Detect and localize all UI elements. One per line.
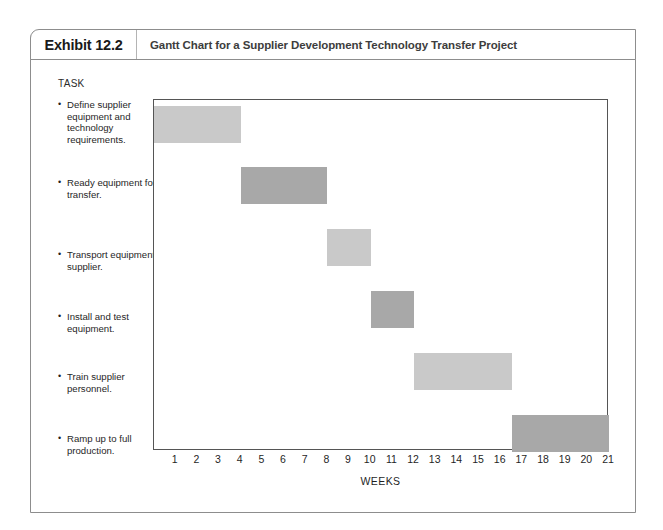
task-label-text: Ramp up to full production. [67, 433, 166, 456]
gantt-bar [512, 415, 610, 452]
x-tick-label: 6 [280, 453, 286, 465]
task-label-text: Transport equipment to supplier. [67, 249, 166, 272]
gantt-bar [371, 291, 414, 328]
x-tick-label: 18 [537, 453, 549, 465]
exhibit-header: Exhibit 12.2 Gantt Chart for a Supplier … [30, 29, 636, 60]
x-tick-label: 9 [345, 453, 351, 465]
task-label-text: Ready equipment for transfer. [67, 177, 166, 200]
bullet-icon: • [58, 249, 67, 261]
bullet-icon: • [58, 433, 67, 445]
gantt-chart: TASK •Define supplier equipment and tech… [31, 61, 635, 512]
task-label-item: •Train supplier personnel. [58, 371, 166, 394]
x-tick-label: 5 [258, 453, 264, 465]
x-tick-label: 7 [302, 453, 308, 465]
x-tick-label: 19 [559, 453, 571, 465]
x-axis-title: WEEKS [153, 475, 608, 487]
x-tick-label: 20 [580, 453, 592, 465]
gantt-bar [154, 106, 241, 143]
x-tick-label: 4 [237, 453, 243, 465]
bullet-icon: • [58, 311, 67, 323]
x-tick-label: 3 [215, 453, 221, 465]
task-label-text: Train supplier personnel. [67, 371, 166, 394]
exhibit-screenshot: Exhibit 12.2 Gantt Chart for a Supplier … [0, 0, 663, 530]
x-tick-label: 21 [602, 453, 614, 465]
x-tick-label: 1 [172, 453, 178, 465]
x-tick-label: 10 [364, 453, 376, 465]
bullet-icon: • [58, 99, 67, 111]
bullet-icon: • [58, 177, 67, 189]
x-tick-label: 15 [472, 453, 484, 465]
x-axis-ticks: 123456789101112131415161718192021 [153, 453, 608, 471]
x-tick-label: 16 [494, 453, 506, 465]
gantt-bar [241, 167, 328, 204]
task-column-header: TASK [58, 78, 85, 89]
x-tick-label: 13 [429, 453, 441, 465]
gantt-plot-area [153, 99, 608, 450]
exhibit-number: Exhibit 12.2 [31, 30, 137, 59]
gantt-bar [327, 229, 370, 266]
x-tick-label: 17 [515, 453, 527, 465]
x-tick-label: 14 [450, 453, 462, 465]
task-label-item: •Define supplier equipment and technolog… [58, 99, 166, 145]
exhibit-title: Gantt Chart for a Supplier Development T… [137, 30, 635, 59]
bullet-icon: • [58, 371, 67, 383]
x-tick-label: 2 [193, 453, 199, 465]
task-label-item: •Install and test equipment. [58, 311, 166, 334]
task-label-item: •Transport equipment to supplier. [58, 249, 166, 272]
task-label-text: Install and test equipment. [67, 311, 166, 334]
gantt-bar [414, 353, 512, 390]
x-tick-label: 8 [323, 453, 329, 465]
x-tick-label: 12 [407, 453, 419, 465]
task-label-item: •Ready equipment for transfer. [58, 177, 166, 200]
task-label-text: Define supplier equipment and technology… [67, 99, 166, 145]
x-tick-label: 11 [386, 453, 397, 465]
task-label-item: •Ramp up to full production. [58, 433, 166, 456]
